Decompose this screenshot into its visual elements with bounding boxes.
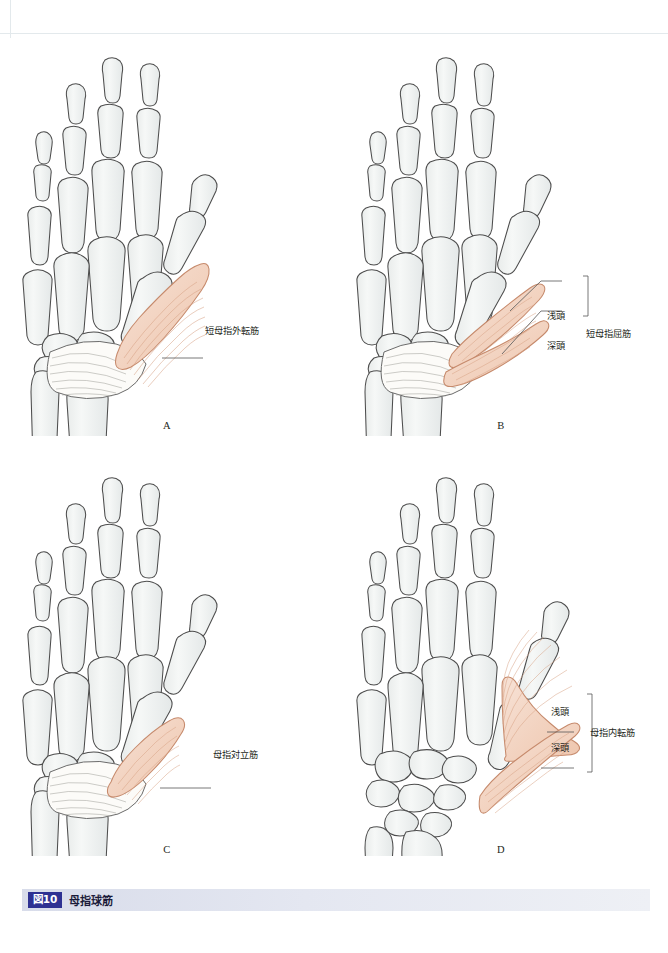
label-adductor-pollicis-group: 母指内転筋	[590, 725, 635, 739]
label-adductor-deep-head: 深頭	[551, 743, 569, 754]
figure-number-badge: 図10	[28, 892, 62, 907]
label-fpb-superficial-head: 浅頭	[547, 311, 565, 322]
label-fpb-deep-head: 深頭	[547, 341, 565, 352]
bracket-b	[583, 276, 588, 316]
label-opponens-pollicis: 母指対立筋	[213, 750, 258, 761]
page-rule-top	[0, 33, 668, 34]
panel-d: D	[334, 456, 668, 876]
figure-caption-bar: 図10 母指球筋	[22, 889, 650, 911]
label-adductor-superficial-head: 浅頭	[551, 707, 569, 718]
figure-caption-title: 母指球筋	[69, 892, 113, 908]
panel-letter-c: C	[0, 844, 334, 855]
panel-letter-a: A	[0, 420, 334, 431]
panel-c: C	[0, 456, 334, 876]
label-flexor-pollicis-brevis-group: 短母指屈筋	[586, 326, 631, 340]
panel-a: A	[0, 36, 334, 456]
figure-illustration-area: A	[0, 36, 668, 881]
label-abductor-pollicis-brevis: 短母指外転筋	[205, 326, 259, 337]
panel-letter-d: D	[334, 844, 668, 855]
panel-b: B	[334, 36, 668, 456]
page-rule-left	[10, 0, 11, 38]
panel-letter-b: B	[334, 420, 668, 431]
hand-skeleton-d	[357, 478, 497, 856]
